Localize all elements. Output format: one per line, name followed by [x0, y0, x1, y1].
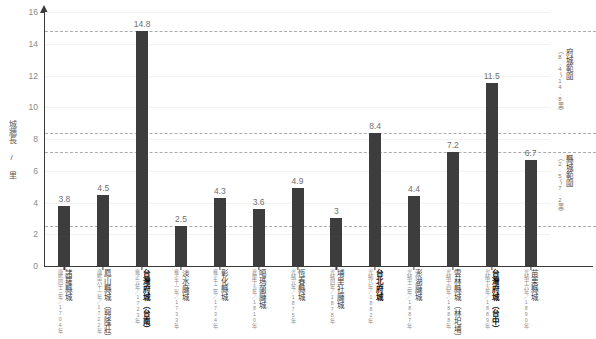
x-axis-category-name: 雲林縣城（林圯埔）	[452, 269, 460, 339]
range-annotation-subtitle: （8.4～14.8里）	[556, 48, 563, 114]
range-annotation: 府城範圍（8.4～14.8里）	[556, 48, 573, 114]
bar-slot: 11.5	[474, 12, 510, 266]
bar[interactable]	[58, 206, 70, 266]
bar-value-label: 14.8	[134, 19, 151, 29]
x-axis-label: 埔里社廳城光緒四年／1878年	[318, 269, 354, 327]
x-axis-line	[44, 266, 593, 267]
bar[interactable]	[253, 209, 265, 266]
x-axis-labels: 諸羅縣城康熙四十三年／1704年鳳山縣城（興隆莊）康熙六十一年／1722年台灣府…	[45, 269, 550, 327]
x-axis-label: 澎湖廳城光緒十三年／1887年	[396, 269, 432, 327]
y-tick-label: 14	[29, 39, 38, 49]
x-axis-label: 苗栗縣城光緒十六年／1890年	[513, 269, 549, 327]
x-axis-label: 淡水廳城雍正十一年／1733年	[163, 269, 199, 327]
bar[interactable]	[97, 195, 109, 266]
x-axis-category-date: 光緒十五年／1889年	[484, 269, 490, 328]
bar[interactable]	[369, 133, 381, 266]
x-axis-category-name: 淡水廳城	[180, 269, 188, 301]
bar-value-label: 4.9	[292, 176, 304, 186]
x-axis-label: 噶瑪蘭廳城嘉慶十五年／1810年	[241, 269, 277, 327]
bar-value-label: 3.8	[59, 194, 71, 204]
bar-slot: 3.6	[241, 12, 277, 266]
x-axis-category-date: 光緒十三年／1887年	[407, 269, 413, 328]
bar-value-label: 11.5	[484, 71, 500, 81]
bar-value-label: 3	[334, 206, 339, 216]
y-tick-label: 4	[33, 198, 38, 208]
x-axis-label: 彰化縣城雍正十二年／1734年	[202, 269, 238, 327]
y-tick-label: 8	[33, 134, 38, 144]
bar[interactable]	[292, 188, 304, 266]
bar[interactable]	[330, 218, 342, 266]
bar-slot: 4.9	[280, 12, 316, 266]
x-axis-category-date: 光緒元年／1875年	[290, 269, 296, 323]
bar-slot: 2.5	[163, 12, 199, 266]
x-axis-label: 台北府城光緒八年／1882年	[357, 269, 393, 327]
x-axis-category-date: 光緒四年／1878年	[329, 269, 335, 323]
x-axis-category-date: 光緒十四年／1888年	[446, 269, 452, 328]
bar-slot: 4.3	[202, 12, 238, 266]
bar-value-label: 6.7	[525, 148, 537, 158]
bar-slot: 8.4	[357, 12, 393, 266]
bar-slot: 4.5	[85, 12, 121, 266]
bar[interactable]	[136, 31, 148, 266]
x-axis-category-name: 台北府城	[374, 269, 382, 301]
y-tick-label: 16	[29, 7, 38, 17]
x-axis-category-name: 恆春縣城	[297, 269, 305, 301]
bar-value-label: 3.6	[253, 197, 265, 207]
bar-value-label: 8.4	[369, 121, 381, 131]
bar-series: 3.84.514.82.54.33.64.938.44.47.211.56.7	[45, 12, 550, 266]
x-axis-category-date: 嘉慶十五年／1810年	[251, 269, 257, 328]
x-axis-label: 台灣府城（台南）雍正元年／1723年	[124, 269, 160, 327]
bar-value-label: 7.2	[447, 140, 459, 150]
x-axis-category-date: 雍正十二年／1734年	[213, 269, 219, 328]
y-tick-label: 0	[33, 261, 38, 271]
range-annotation: 縣城範圍（2.5～7.2里）	[556, 155, 573, 215]
x-axis-category-name: 台灣府城（台中）	[491, 269, 499, 333]
bar[interactable]	[408, 196, 420, 266]
x-axis-category-name: 台灣府城（台南）	[141, 269, 149, 333]
y-tick-label: 10	[29, 102, 38, 112]
x-axis-category-name: 鳳山縣城（興隆莊）	[103, 269, 111, 339]
bar-slot: 6.7	[513, 12, 549, 266]
range-annotation-title: 縣城範圍	[564, 155, 573, 187]
x-axis-category-name: 彰化縣城	[219, 269, 227, 301]
y-axis-ticks: 0246810121416	[18, 0, 42, 266]
x-axis-category-date: 康熙四十三年／1704年	[57, 269, 63, 333]
x-axis-category-name: 苗栗縣城	[530, 269, 538, 301]
x-axis-category-name: 澎湖廳城	[413, 269, 421, 301]
bar-slot: 3.8	[46, 12, 82, 266]
bar[interactable]	[486, 83, 498, 266]
bar[interactable]	[525, 160, 537, 266]
bar-value-label: 4.3	[214, 186, 226, 196]
bar-value-label: 4.4	[408, 184, 420, 194]
x-axis-label: 恆春縣城光緒元年／1875年	[280, 269, 316, 327]
x-axis-category-name: 噶瑪蘭廳城	[258, 269, 266, 309]
y-axis-title: 城牆長 / 里	[0, 120, 16, 179]
y-tick-label: 2	[33, 229, 38, 239]
x-axis-label: 鳳山縣城（興隆莊）康熙六十一年／1722年	[85, 269, 121, 327]
x-axis-category-name: 諸羅縣城	[64, 269, 72, 301]
bar[interactable]	[175, 226, 187, 266]
x-axis-category-date: 康熙六十一年／1722年	[96, 269, 102, 333]
y-tick-label: 12	[29, 71, 38, 81]
bar-slot: 7.2	[435, 12, 471, 266]
bar-slot: 3	[318, 12, 354, 266]
y-tick-label: 6	[33, 166, 38, 176]
x-axis-category-date: 光緒十六年／1890年	[523, 269, 529, 328]
plot-area: 3.84.514.82.54.33.64.938.44.47.211.56.7	[45, 12, 550, 266]
bar[interactable]	[447, 152, 459, 266]
x-axis-category-date: 雍正元年／1723年	[135, 269, 141, 323]
x-axis-category-date: 雍正十一年／1733年	[174, 269, 180, 328]
bar-value-label: 4.5	[97, 183, 109, 193]
bar[interactable]	[214, 198, 226, 266]
range-annotation-subtitle: （2.5～7.2里）	[556, 155, 563, 215]
bar-value-label: 2.5	[175, 214, 187, 224]
range-annotation-title: 府城範圍	[564, 48, 573, 80]
x-axis-category-name: 埔里社廳城	[336, 269, 344, 309]
bar-slot: 14.8	[124, 12, 160, 266]
x-axis-label: 雲林縣城（林圯埔）光緒十四年／1888年	[435, 269, 471, 327]
x-axis-label: 台灣府城（台中）光緒十五年／1889年	[474, 269, 510, 327]
bar-slot: 4.4	[396, 12, 432, 266]
x-axis-category-date: 光緒八年／1882年	[368, 269, 374, 323]
x-axis-label: 諸羅縣城康熙四十三年／1704年	[46, 269, 82, 327]
